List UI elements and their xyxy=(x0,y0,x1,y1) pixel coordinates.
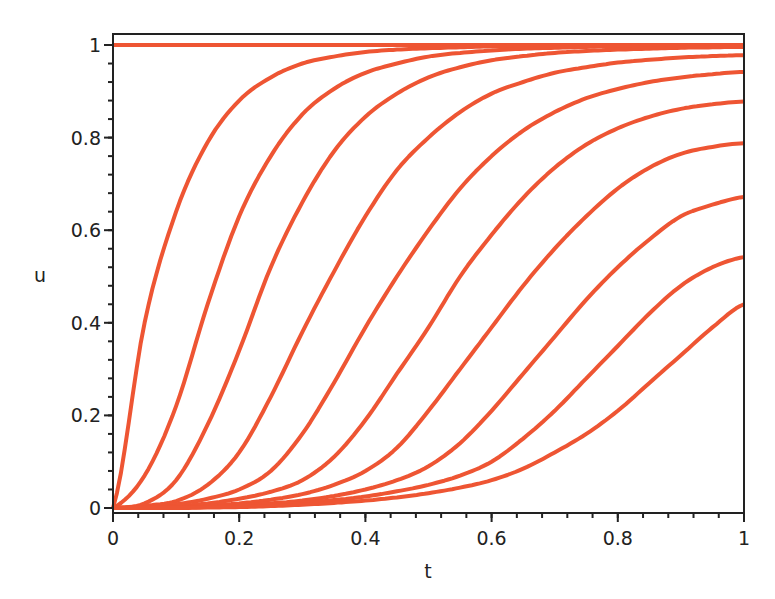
x-tick-label: 0.8 xyxy=(603,527,633,549)
y-tick-label: 0.2 xyxy=(71,404,101,426)
line-chart: 00.20.40.60.81 00.20.40.60.81 t u xyxy=(0,0,775,599)
x-axis-label: t xyxy=(424,560,431,582)
y-tick-label: 0.8 xyxy=(71,127,101,149)
curve-u8 xyxy=(113,197,744,508)
y-tick-label: 0 xyxy=(89,497,101,519)
y-tick-label: 0.6 xyxy=(71,219,101,241)
x-tick-label: 0.6 xyxy=(476,527,506,549)
x-tick-label: 0.4 xyxy=(350,527,380,549)
x-axis: 00.20.40.60.81 xyxy=(107,513,750,549)
curve-u10 xyxy=(113,304,744,508)
y-axis-label: u xyxy=(34,264,46,286)
x-tick-label: 0 xyxy=(107,527,119,549)
plot-lines xyxy=(113,45,744,508)
y-tick-label: 1 xyxy=(89,34,101,56)
curve-u1 xyxy=(113,45,744,508)
y-axis: 00.20.40.60.81 xyxy=(71,34,113,519)
x-tick-label: 0.2 xyxy=(224,527,254,549)
x-tick-label: 1 xyxy=(738,527,750,549)
y-tick-label: 0.4 xyxy=(71,312,101,334)
curve-u4 xyxy=(113,55,744,508)
plot-frame xyxy=(113,34,744,513)
